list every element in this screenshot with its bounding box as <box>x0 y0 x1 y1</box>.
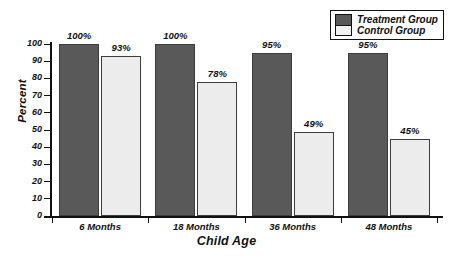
bar-value-label: 100% <box>149 31 201 41</box>
y-axis-tick-label-wrap: 80 <box>14 73 42 82</box>
y-axis-tick-label: 90 <box>16 56 42 65</box>
y-axis-tick-label: 30 <box>16 159 42 168</box>
chart-legend: Treatment Group Control Group <box>330 10 444 40</box>
x-axis-tick <box>245 218 246 223</box>
legend-swatch-stack <box>335 14 352 36</box>
legend-label-control: Control Group <box>357 25 438 36</box>
bar-treatment <box>155 44 195 216</box>
y-axis-tick-label-wrap: 60 <box>14 108 42 117</box>
bar-treatment <box>252 53 292 216</box>
legend-swatch-control <box>336 25 351 35</box>
y-axis-tick-label-wrap: 90 <box>14 56 42 65</box>
y-axis-tick-label-wrap: 10 <box>14 194 42 203</box>
x-axis-tick <box>437 218 438 223</box>
x-axis-group-label: 36 Months <box>245 221 341 232</box>
x-axis-tick <box>52 218 53 223</box>
bar-treatment <box>348 53 388 216</box>
y-axis-tick <box>44 181 51 182</box>
x-axis-group-label: 6 Months <box>52 221 148 232</box>
bar-value-label: 78% <box>191 69 243 79</box>
y-axis-tick <box>44 44 51 45</box>
y-axis-tick-label-wrap: 100 <box>14 39 42 48</box>
y-axis-tick <box>44 130 51 131</box>
y-axis-tick-label-wrap: 40 <box>14 142 42 151</box>
legend-swatch-treatment <box>336 15 351 25</box>
bar-control <box>197 82 237 216</box>
bar-value-label: 95% <box>246 40 298 50</box>
legend-label-treatment: Treatment Group <box>357 14 438 25</box>
y-axis-tick <box>44 198 51 199</box>
y-axis-tick <box>44 78 51 79</box>
bar-value-label: 95% <box>342 40 394 50</box>
bar-value-label: 45% <box>384 126 436 136</box>
y-axis-tick-label-wrap: 0 <box>14 211 42 220</box>
x-axis-group-label: 48 Months <box>341 221 437 232</box>
x-axis-tick <box>341 218 342 223</box>
y-axis-tick-label: 40 <box>16 142 42 151</box>
y-axis-tick <box>44 147 51 148</box>
y-axis-tick <box>44 95 51 96</box>
y-axis-tick-label: 20 <box>16 177 42 186</box>
bar-control <box>390 139 430 216</box>
bar-control <box>101 56 141 216</box>
y-axis-tick-label-wrap: 20 <box>14 177 42 186</box>
y-axis-tick-label-wrap: 70 <box>14 91 42 100</box>
y-axis-tick <box>44 61 51 62</box>
y-axis-tick-label: 70 <box>16 91 42 100</box>
y-axis-tick-label: 100 <box>16 39 42 48</box>
y-axis-tick-label: 50 <box>16 125 42 134</box>
bar-value-label: 100% <box>53 31 105 41</box>
y-axis-tick-label: 10 <box>16 194 42 203</box>
x-axis-line <box>44 216 443 218</box>
x-axis-tick <box>148 218 149 223</box>
y-axis-tick-label-wrap: 30 <box>14 159 42 168</box>
legend-label-stack: Treatment Group Control Group <box>357 14 438 36</box>
y-axis-tick-label: 80 <box>16 73 42 82</box>
y-axis-tick-label-wrap: 50 <box>14 125 42 134</box>
y-axis-tick <box>44 164 51 165</box>
y-axis-tick-label: 60 <box>16 108 42 117</box>
x-axis-group-label: 18 Months <box>148 221 244 232</box>
bar-value-label: 49% <box>288 119 340 129</box>
bar-control <box>294 132 334 216</box>
bar-chart: Percent 0102030405060708090100 100%93%10… <box>0 0 453 256</box>
y-axis-tick <box>44 216 51 217</box>
plot-area: 100%93%100%78%95%49%95%45% <box>52 44 437 216</box>
bar-treatment <box>59 44 99 216</box>
x-axis-title: Child Age <box>0 234 453 248</box>
bar-value-label: 93% <box>95 43 147 53</box>
y-axis-tick-label: 0 <box>16 211 42 220</box>
y-axis-tick <box>44 112 51 113</box>
